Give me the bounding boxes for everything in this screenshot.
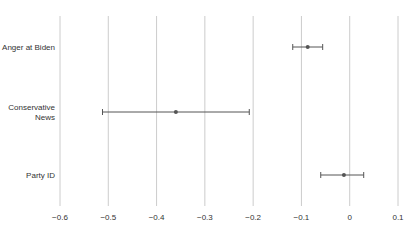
x-tick-label: −0.3: [197, 213, 213, 222]
x-tick-label: −0.6: [52, 213, 68, 222]
x-tick-label: −0.4: [149, 213, 165, 222]
x-tick-label: −0.2: [245, 213, 261, 222]
x-tick-label: −0.1: [294, 213, 310, 222]
point-estimate: [342, 173, 346, 177]
y-category-label: Anger at Biden: [2, 43, 55, 52]
point-estimate: [174, 110, 178, 114]
point-estimate: [306, 45, 310, 49]
estimates-with-error-bars: [102, 44, 363, 178]
x-tick-label: −0.5: [100, 213, 116, 222]
vertical-gridlines: [60, 16, 398, 206]
coefficient-plot: Anger at BidenConservativeNewsParty ID −…: [0, 0, 413, 231]
x-tick-label: 0: [347, 213, 352, 222]
x-tick-label: 0.1: [392, 213, 404, 222]
y-category-label: Party ID: [26, 171, 55, 180]
y-category-label: News: [35, 113, 55, 122]
x-axis-tick-labels: −0.6−0.5−0.4−0.3−0.2−0.100.1: [52, 213, 404, 222]
y-category-label: Conservative: [8, 103, 55, 112]
y-axis-labels: Anger at BidenConservativeNewsParty ID: [2, 43, 55, 180]
